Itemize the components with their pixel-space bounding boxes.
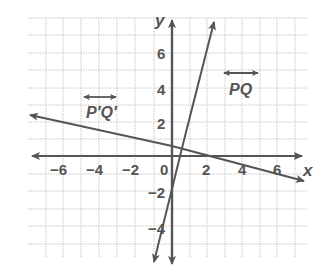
- y-tick-neg4: −4: [148, 220, 166, 237]
- x-axis-label: x: [302, 161, 314, 180]
- x-tick-neg2: −2: [122, 161, 139, 178]
- y-tick-neg2: −2: [148, 184, 165, 201]
- x-tick-neg4: −4: [86, 161, 104, 178]
- y-axis-label: y: [154, 11, 166, 30]
- x-tick-neg6: −6: [50, 161, 67, 178]
- grid: [28, 18, 308, 258]
- y-tick-6: 6: [157, 45, 165, 62]
- y-tick-2: 2: [157, 115, 165, 132]
- y-tick-4: 4: [157, 81, 166, 98]
- pq-prime-label: P′Q′: [86, 104, 118, 121]
- x-tick-6: 6: [273, 161, 281, 178]
- x-tick-2: 2: [202, 161, 210, 178]
- coordinate-plane: P′Q′ PQ y x −6 −4 −2 0 2 4 6 6 4 2 −2 −4: [0, 0, 322, 274]
- origin-label: 0: [160, 161, 168, 178]
- pq-label: PQ: [229, 81, 253, 98]
- x-tick-4: 4: [238, 161, 247, 178]
